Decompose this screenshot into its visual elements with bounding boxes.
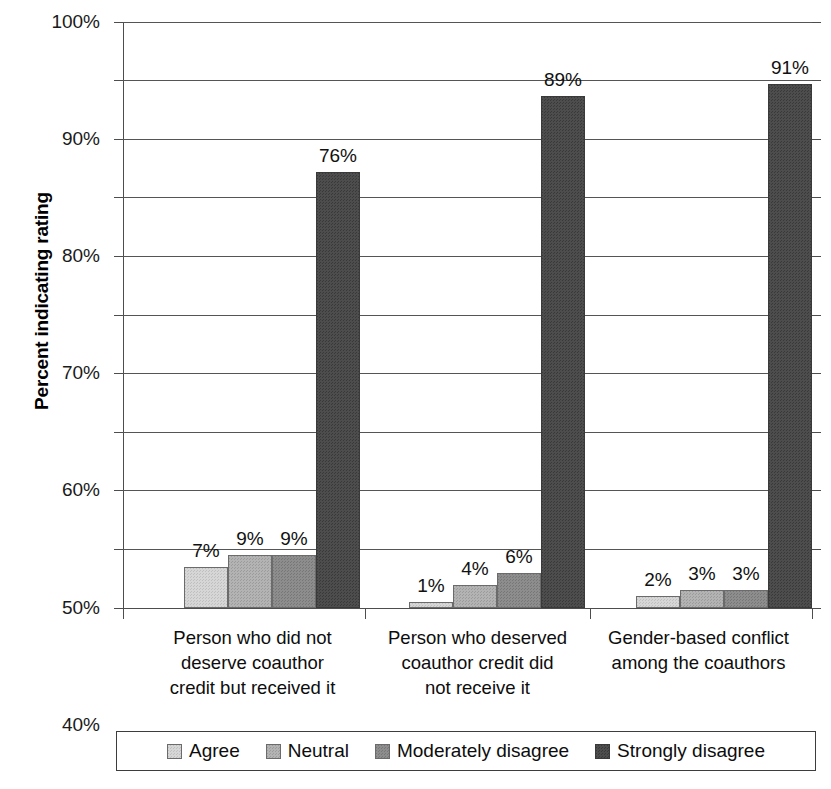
y-axis-tick-right xyxy=(812,373,821,374)
category-label-line: among the coauthors xyxy=(579,650,819,675)
y-axis-tick: 20% xyxy=(114,490,123,491)
bar[interactable] xyxy=(228,555,272,608)
y-axis-tick-right xyxy=(812,549,821,550)
legend-label: Neutral xyxy=(288,740,349,762)
y-axis-tick-label: 50% xyxy=(62,597,100,619)
gridline xyxy=(123,256,812,257)
x-axis-end-tick xyxy=(812,608,813,619)
x-axis-category-label: Person who did notdeserve coauthorcredit… xyxy=(133,625,373,700)
plot-area: 0%10%20%30%40%50%60%70%80%90%100% 7%9%9%… xyxy=(123,22,812,608)
x-axis-group-tick xyxy=(590,608,591,619)
legend-label: Moderately disagree xyxy=(397,740,569,762)
bar[interactable] xyxy=(453,585,497,608)
legend-item-strongly-disagree[interactable]: Strongly disagree xyxy=(582,740,778,762)
bar-value-label: 6% xyxy=(505,546,532,568)
y-axis-tick-right xyxy=(812,608,821,609)
bar[interactable] xyxy=(409,602,453,608)
y-axis-tick-right xyxy=(812,315,821,316)
category-label-line: credit but received it xyxy=(133,675,373,700)
gridline xyxy=(123,490,812,491)
bar-value-label: 91% xyxy=(771,57,809,79)
bar[interactable] xyxy=(316,172,360,608)
y-axis-tick: 80% xyxy=(114,139,123,140)
legend-item-moderately-disagree[interactable]: Moderately disagree xyxy=(362,740,582,762)
y-axis-tick-label: 100% xyxy=(51,11,100,33)
bar[interactable] xyxy=(184,567,228,608)
y-axis-tick-label: 40% xyxy=(62,714,100,736)
bar[interactable] xyxy=(636,596,680,608)
bar-value-label: 1% xyxy=(417,575,444,597)
gridline xyxy=(123,22,812,23)
x-axis-category-label: Person who deservedcoauthor credit didno… xyxy=(358,625,598,700)
bar[interactable] xyxy=(272,555,316,608)
y-axis-tick-label: 90% xyxy=(62,128,100,150)
bar[interactable] xyxy=(680,590,724,608)
bar-value-label: 9% xyxy=(236,528,263,550)
bar-value-label: 9% xyxy=(280,528,307,550)
bar[interactable] xyxy=(541,96,585,608)
gridline xyxy=(123,549,812,550)
y-axis-tick: 0% xyxy=(114,608,123,609)
y-axis-tick-label: 60% xyxy=(62,479,100,501)
legend-item-neutral[interactable]: Neutral xyxy=(253,740,362,762)
x-axis-category-label: Gender-based conflictamong the coauthors xyxy=(579,625,819,675)
y-axis-tick-label: 80% xyxy=(62,245,100,267)
bar-value-label: 76% xyxy=(319,145,357,167)
legend-swatch-icon xyxy=(375,744,390,759)
y-axis-tick-label: 70% xyxy=(62,362,100,384)
y-axis-tick-right xyxy=(812,139,821,140)
bar-value-label: 3% xyxy=(732,563,759,585)
y-axis-tick: 30% xyxy=(114,432,123,433)
y-axis-tick: 60% xyxy=(114,256,123,257)
y-axis-tick-right xyxy=(812,22,821,23)
bar-value-label: 3% xyxy=(688,563,715,585)
gridline xyxy=(123,432,812,433)
bar-value-label: 89% xyxy=(544,69,582,91)
category-label-line: not receive it xyxy=(358,675,598,700)
gridline xyxy=(123,315,812,316)
legend-label: Strongly disagree xyxy=(617,740,765,762)
legend: AgreeNeutralModerately disagreeStrongly … xyxy=(116,731,816,771)
y-axis-tick: 50% xyxy=(114,315,123,316)
gridline xyxy=(123,80,812,81)
legend-swatch-icon xyxy=(266,744,281,759)
bar-value-label: 4% xyxy=(461,558,488,580)
legend-label: Agree xyxy=(189,740,240,762)
y-axis-title: Percent indicating rating xyxy=(31,171,53,431)
category-label-line: deserve coauthor xyxy=(133,650,373,675)
category-label-line: coauthor credit did xyxy=(358,650,598,675)
x-axis-group-tick xyxy=(365,608,366,619)
y-axis-tick-right xyxy=(812,256,821,257)
y-axis-tick: 100% xyxy=(114,22,123,23)
y-axis-tick: 70% xyxy=(114,197,123,198)
y-axis-tick-right xyxy=(812,197,821,198)
y-axis-tick: 90% xyxy=(114,80,123,81)
category-label-line: Person who deserved xyxy=(358,625,598,650)
category-label-line: Person who did not xyxy=(133,625,373,650)
y-axis-tick-right xyxy=(812,490,821,491)
y-axis-tick-right xyxy=(812,432,821,433)
gridline xyxy=(123,373,812,374)
category-label-line: Gender-based conflict xyxy=(579,625,819,650)
bar-chart: Percent indicating rating 0%10%20%30%40%… xyxy=(0,0,831,789)
x-axis-start-tick xyxy=(123,608,124,619)
bar-value-label: 7% xyxy=(192,540,219,562)
legend-swatch-icon xyxy=(167,744,182,759)
legend-swatch-icon xyxy=(595,744,610,759)
y-axis-tick-right xyxy=(812,80,821,81)
bar[interactable] xyxy=(768,84,812,608)
gridline xyxy=(123,139,812,140)
gridline xyxy=(123,197,812,198)
bar[interactable] xyxy=(724,590,768,608)
y-axis-tick: 10% xyxy=(114,549,123,550)
legend-item-agree[interactable]: Agree xyxy=(154,740,253,762)
y-axis-tick: 40% xyxy=(114,373,123,374)
bar-value-label: 2% xyxy=(644,569,671,591)
bar[interactable] xyxy=(497,573,541,608)
